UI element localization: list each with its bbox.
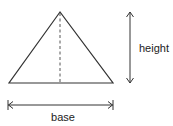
triangle-diagram: height base [0, 0, 173, 126]
base-label: base [51, 111, 75, 123]
height-arrow [127, 12, 134, 83]
base-arrow [8, 100, 113, 110]
height-label: height [139, 42, 169, 54]
triangle-shape [9, 12, 113, 83]
